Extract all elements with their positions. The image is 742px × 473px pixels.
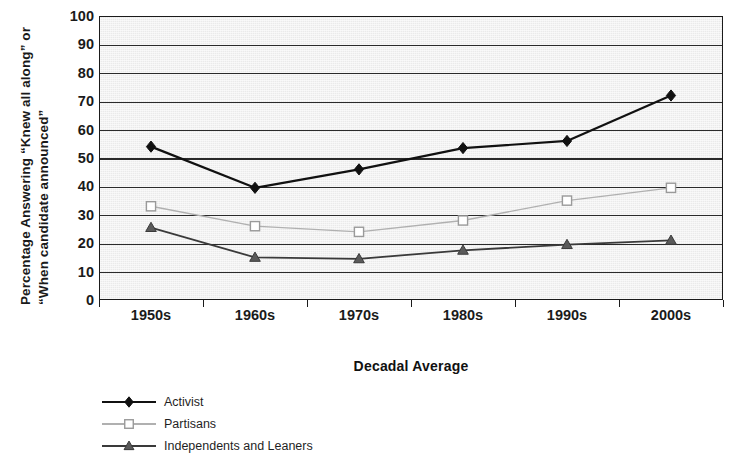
x-tick-label: 1970s (307, 307, 411, 323)
y-tick-label: 50 (56, 151, 94, 166)
x-tick-mark (203, 300, 204, 307)
legend-marker-glyph (125, 420, 134, 429)
legend-key (100, 393, 158, 411)
series-activist (146, 90, 675, 194)
legend-key (100, 415, 158, 433)
series-line (151, 228, 671, 259)
x-tick-label: 1950s (99, 307, 203, 323)
data-point-marker (562, 135, 571, 146)
series-line (151, 188, 671, 232)
y-tick-label: 30 (56, 208, 94, 223)
legend-key (100, 437, 158, 455)
data-point-marker (146, 222, 157, 231)
legend-label: Independents and Leaners (158, 439, 313, 453)
legend-item[interactable]: Activist (100, 392, 520, 412)
y-axis-title: Percentage Answering “Knew all along” or… (0, 0, 56, 310)
y-axis-tick-labels: 0102030405060708090100 (52, 0, 94, 310)
x-tick-mark (411, 300, 412, 307)
y-tick-label: 60 (56, 123, 94, 138)
legend-marker-triangle-filled (121, 438, 137, 454)
data-point-marker (458, 142, 467, 153)
x-tick-mark (515, 300, 516, 307)
x-tick-label: 1960s (203, 307, 307, 323)
data-point-marker (666, 90, 675, 101)
x-tick-mark (723, 300, 724, 307)
chart-legend: ActivistPartisansIndependents and Leaner… (100, 392, 520, 458)
legend-marker-square-open (121, 416, 137, 432)
x-tick-label: 1980s (411, 307, 515, 323)
x-tick-mark (99, 300, 100, 307)
y-tick-label: 100 (56, 9, 94, 24)
y-tick-label: 10 (56, 265, 94, 280)
x-tick-mark (307, 300, 308, 307)
data-point-marker (146, 141, 155, 152)
legend-item[interactable]: Partisans (100, 414, 520, 434)
legend-marker-diamond-filled (121, 394, 137, 410)
data-point-marker (666, 183, 675, 192)
series-line (151, 96, 671, 188)
series-partisans (146, 183, 675, 236)
data-point-marker (458, 216, 467, 225)
y-tick-label: 40 (56, 179, 94, 194)
x-axis-title: Decadal Average (99, 358, 723, 374)
legend-marker-glyph (125, 397, 134, 407)
y-tick-label: 90 (56, 37, 94, 52)
x-tick-label: 2000s (619, 307, 723, 323)
data-point-marker (250, 222, 259, 231)
series-overlay (99, 16, 723, 300)
data-point-marker (354, 164, 363, 175)
y-tick-label: 70 (56, 94, 94, 109)
x-axis-tick-labels: 1950s1960s1970s1980s1990s2000s (99, 307, 723, 329)
legend-label: Partisans (158, 417, 216, 431)
legend-item[interactable]: Independents and Leaners (100, 436, 520, 456)
x-tick-mark (619, 300, 620, 307)
y-tick-label: 0 (56, 293, 94, 308)
y-tick-label: 80 (56, 66, 94, 81)
x-tick-label: 1990s (515, 307, 619, 323)
data-point-marker (354, 227, 363, 236)
data-point-marker (146, 202, 155, 211)
chart-figure: Percentage Answering “Knew all along” or… (0, 0, 742, 473)
data-point-marker (250, 182, 259, 193)
y-axis-title-line1: Percentage Answering “Knew all along” or (18, 27, 33, 305)
series-independents-and-leaners (146, 222, 677, 262)
y-tick-label: 20 (56, 236, 94, 251)
y-axis-title-line2: “When candidate announced” (36, 110, 51, 305)
legend-marker-glyph (124, 441, 134, 450)
data-point-marker (562, 196, 571, 205)
legend-label: Activist (158, 395, 204, 409)
